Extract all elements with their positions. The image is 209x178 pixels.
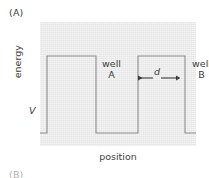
figure-root: (A) energy V well A well B d — [0, 0, 209, 178]
well-b-id: B — [178, 69, 209, 80]
well-b-name: well — [178, 58, 209, 69]
panel-label-a: (A) — [9, 8, 24, 18]
potential-level-label-v: V — [29, 106, 36, 116]
plot-area: well A well B d — [40, 22, 196, 146]
well-a-name: well — [87, 58, 136, 69]
well-a-id: A — [87, 69, 136, 80]
y-axis-title: energy — [13, 30, 23, 94]
potential-curve — [40, 22, 196, 146]
barrier-width-arrow — [134, 73, 180, 83]
x-axis-title: position — [40, 152, 196, 162]
well-b-label: well B — [178, 58, 209, 80]
well-a-label: well A — [87, 58, 136, 80]
panel-label-b-partial: (B) — [9, 170, 24, 178]
